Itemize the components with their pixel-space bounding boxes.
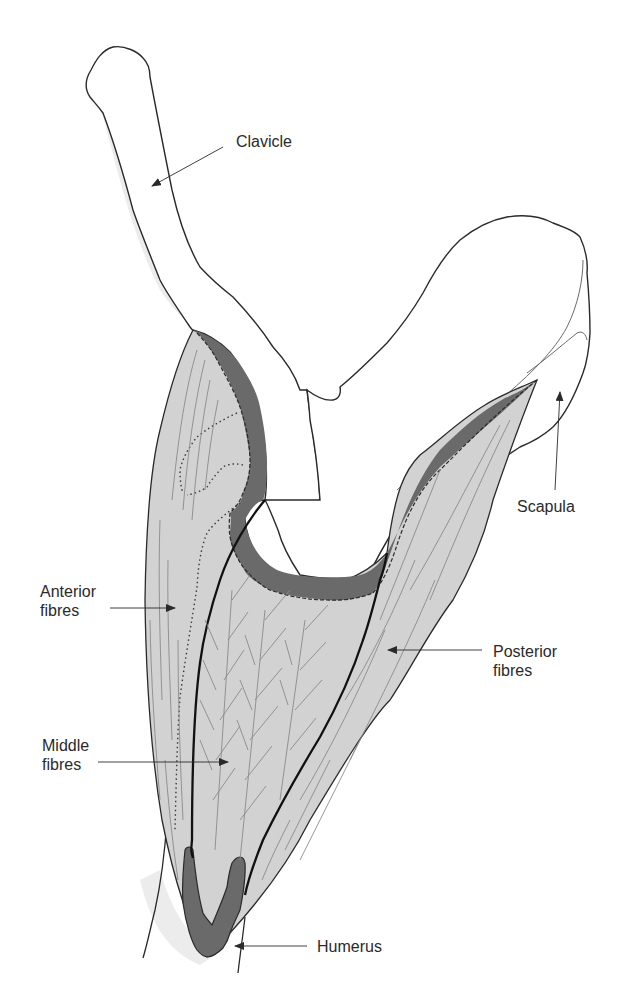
humerus-label: Humerus	[317, 937, 382, 956]
humerus-bone-right	[238, 917, 245, 973]
anterior-fibres-label: Anterior fibres	[40, 582, 96, 620]
scapula-label: Scapula	[517, 497, 575, 516]
posterior-fibres-label: Posterior fibres	[493, 642, 557, 680]
clavicle-label: Clavicle	[236, 132, 292, 151]
middle-fibres-label: Middle fibres	[42, 736, 89, 774]
